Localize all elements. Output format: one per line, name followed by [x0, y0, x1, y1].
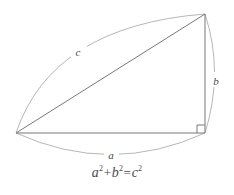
side-label-b: b — [213, 75, 219, 87]
equation-exponent-c: 2 — [138, 164, 142, 173]
side-label-c: c — [76, 46, 81, 58]
right-triangle — [16, 14, 205, 133]
equation-plus-operator: + — [103, 165, 112, 180]
side-label-a: a — [108, 149, 114, 161]
pythagorean-equation: a2+b2=c2 — [0, 166, 234, 180]
right-angle-marker — [197, 125, 205, 133]
equation-term-a: a — [92, 165, 99, 180]
equation-equals-operator: = — [123, 165, 132, 180]
pythagorean-theorem-figure: c b a a2+b2=c2 — [0, 0, 234, 195]
equation-term-b: b — [112, 165, 119, 180]
